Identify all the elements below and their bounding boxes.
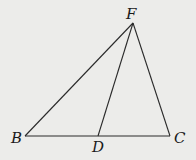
segment-fb bbox=[25, 23, 133, 136]
segment-fc bbox=[133, 23, 170, 136]
triangle-diagram: F B C D bbox=[0, 0, 196, 160]
label-d: D bbox=[91, 138, 104, 156]
label-c: C bbox=[174, 129, 186, 147]
label-b: B bbox=[10, 129, 22, 147]
label-f: F bbox=[125, 5, 137, 23]
segment-fd bbox=[98, 23, 133, 136]
